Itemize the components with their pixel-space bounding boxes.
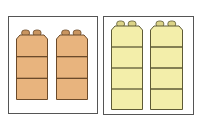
- block-tower: [56, 29, 88, 100]
- block-tower: [150, 20, 183, 110]
- block-tower: [111, 20, 143, 110]
- block-tower: [16, 29, 48, 100]
